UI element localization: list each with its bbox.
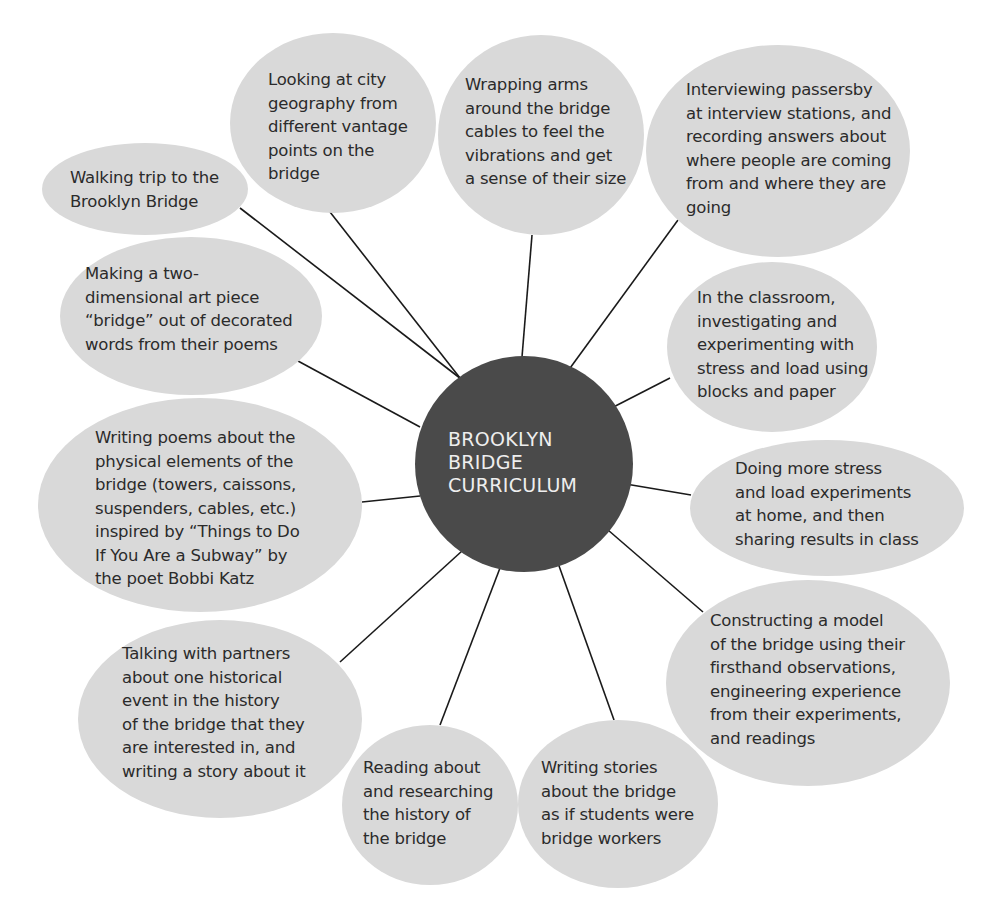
node-reading-history-label: Reading about and researching the histor… [363,756,493,850]
connector-art-piece [298,361,420,427]
node-talking-partners-label: Talking with partners about one historic… [122,642,306,783]
node-art-piece-label: Making a two- dimensional art piece “bri… [85,262,292,356]
connector-reading-history [440,568,500,725]
connector-talking-partners [340,551,462,662]
brooklyn-bridge-curriculum-mind-map: Walking trip to the Brooklyn Bridge Look… [0,0,994,907]
node-wrapping-arms-label: Wrapping arms around the bridge cables t… [465,73,626,191]
node-walking-trip-label: Walking trip to the Brooklyn Bridge [70,166,219,213]
node-interviewing-label: Interviewing passersby at interview stat… [686,78,891,219]
connector-writing-stories [558,563,614,720]
connector-constructing-model [608,530,703,612]
node-city-geography-label: Looking at city geography from different… [268,68,408,186]
node-home-experiments-label: Doing more stress and load experiments a… [735,457,919,551]
hub-label: BROOKLYN BRIDGE CURRICULUM [448,428,577,497]
connector-interviewing [565,220,678,375]
node-writing-poems-label: Writing poems about the physical element… [95,426,300,591]
node-writing-stories-label: Writing stories about the bridge as if s… [541,756,694,850]
node-classroom-experiments-label: In the classroom, investigating and expe… [697,286,868,404]
connector-wrapping-arms [522,235,532,357]
connector-city-geography [330,212,460,378]
node-constructing-model-label: Constructing a model of the bridge using… [710,609,905,750]
connector-writing-poems [362,496,420,502]
